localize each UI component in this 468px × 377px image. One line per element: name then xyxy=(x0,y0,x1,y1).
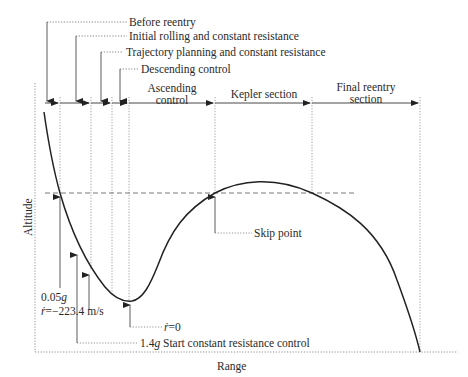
rdot-zero-value: =0 xyxy=(168,321,180,333)
label-rdot-zero: ṙ=0 xyxy=(164,321,181,333)
section-ascending-line1: Ascending xyxy=(140,82,204,94)
section-final-line1: Final reentry xyxy=(330,81,402,93)
g005-unit: g xyxy=(61,291,67,303)
g005-number: 0.05 xyxy=(41,291,61,303)
x-axis-label: Range xyxy=(217,360,246,372)
rdot-value: =−223.4 m/s xyxy=(45,305,103,317)
label-1-4g-start: 1.4g Start constant resistance control xyxy=(140,337,310,349)
label-descending-control: Descending control xyxy=(141,63,231,75)
g14-text: Start constant resistance control xyxy=(160,337,309,349)
label-skip-point: Skip point xyxy=(254,227,302,239)
label-initial-rolling: Initial rolling and constant resistance xyxy=(129,30,299,42)
section-ascending-line2: control xyxy=(140,94,204,106)
label-trajectory-planning: Trajectory planning and constant resista… xyxy=(126,46,326,58)
section-kepler: Kepler section xyxy=(220,88,308,100)
label-rdot-223: ṙ=−223.4 m/s xyxy=(41,305,104,317)
g14-number: 1.4 xyxy=(140,337,154,349)
phase-boundaries xyxy=(60,97,420,352)
y-axis-label: Altitude xyxy=(22,198,34,236)
section-final-line2: section xyxy=(330,93,402,105)
label-before-reentry: Before reentry xyxy=(129,16,196,28)
section-final-reentry: Final reentry section xyxy=(330,81,402,105)
section-ascending-control: Ascending control xyxy=(140,82,204,106)
phase-callout-leaders xyxy=(47,22,138,101)
label-0-05g: 0.05g xyxy=(41,291,67,303)
